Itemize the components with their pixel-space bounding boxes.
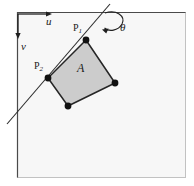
theta-label: θ [120,22,125,33]
v-axis-label: v [21,41,26,52]
vertex-p1-label: P1 [73,23,82,33]
vertex-p1-label-base: P [73,22,79,33]
vertex-p1-label-subscript: 1 [79,27,83,35]
vertex-p2-label-subscript: 2 [40,65,44,73]
figure-container: u v θ A P1 P2 [0,0,194,186]
vertex-p1-dot [83,37,90,44]
vertex-p2-label: P2 [34,61,43,71]
vertex-p2-label-base: P [34,60,40,71]
image-frame-fill [18,13,186,178]
region-area-label: A [77,62,84,74]
vertex-p2-dot [45,75,52,82]
vertex-right-dot [112,80,119,87]
figure-canvas [0,0,194,186]
u-axis-label: u [46,16,52,27]
vertex-bottom-dot [65,103,72,110]
